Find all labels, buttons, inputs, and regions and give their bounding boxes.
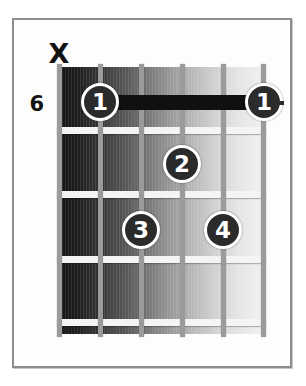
mute-x-icon: X xyxy=(45,40,73,67)
finger-dot-1-high[interactable]: 1 xyxy=(245,83,283,121)
finger-dot-3[interactable]: 3 xyxy=(122,211,160,249)
barre-bar xyxy=(100,95,264,110)
edge-tick-mark xyxy=(279,101,284,105)
fretboard: 1 1 2 3 4 xyxy=(57,67,266,334)
fret-wire-4 xyxy=(57,319,266,326)
finger-dot-2[interactable]: 2 xyxy=(163,145,201,183)
fret-wire-3 xyxy=(57,256,266,263)
string-6 xyxy=(57,64,62,337)
fret-wire-2 xyxy=(57,191,266,198)
diagram-frame: 6 X 1 1 2 3 4 xyxy=(12,18,292,368)
finger-dot-1-low[interactable]: 1 xyxy=(81,83,119,121)
fret-number-label: 6 xyxy=(20,94,44,115)
chord-diagram-screenshot: 6 X 1 1 2 3 4 xyxy=(0,0,306,386)
fret-wire-1 xyxy=(57,127,266,134)
finger-dot-4[interactable]: 4 xyxy=(204,211,242,249)
